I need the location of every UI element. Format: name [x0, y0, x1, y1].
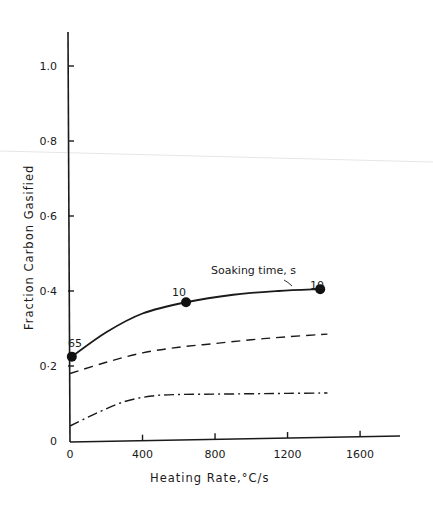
x-ticks: 040080012001600 [67, 431, 375, 461]
data-marker [67, 352, 77, 362]
x-tick-label: 800 [205, 448, 226, 461]
series-line-dashed [70, 334, 327, 373]
x-axis [70, 436, 400, 442]
marker-label-10b: 10 [310, 279, 324, 292]
y-tick-label: 0·2 [40, 360, 58, 373]
x-tick-label: 1600 [346, 448, 374, 461]
x-axis-label: Heating Rate,°C/s [150, 471, 269, 485]
soaking-time-label: Soaking time, s [211, 264, 296, 277]
leader-line [284, 280, 292, 286]
y-axis [68, 32, 70, 442]
y-tick-label: 0·8 [40, 135, 58, 148]
series-line-solid [72, 289, 320, 357]
y-tick-label: 0·6 [40, 210, 58, 223]
y-tick-label: 0·4 [40, 285, 58, 298]
marker-label-10a: 10 [172, 286, 186, 299]
x-tick-label: 1200 [274, 448, 302, 461]
marker-label-65: 65 [68, 337, 82, 350]
x-tick-label: 400 [132, 448, 153, 461]
y-tick-label: 1.0 [40, 60, 58, 73]
axes [68, 32, 400, 442]
y-axis-label: Fraction Carbon Gasified [22, 165, 36, 330]
series-group [67, 284, 328, 426]
chart: 00·20·40·60·81.0 040080012001600 Soaking… [0, 0, 433, 507]
x-tick-label: 0 [67, 448, 74, 461]
y-tick-label: 0 [50, 435, 57, 448]
scan-artifact-line [0, 151, 433, 162]
series-line-dashdot [70, 393, 327, 426]
